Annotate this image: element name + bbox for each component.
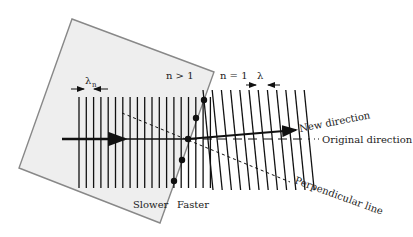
- lambda-n-label: λ: [85, 75, 92, 86]
- boundary-point: [185, 136, 191, 142]
- boundary-point: [201, 97, 207, 103]
- n-equals-1-label: n = 1: [220, 70, 248, 81]
- wavefront-air: [221, 90, 231, 190]
- boundary-point: [171, 178, 177, 184]
- new-direction-label: New direction: [298, 109, 371, 134]
- new-direction-ray: [188, 130, 296, 139]
- original-direction-label: Original direction: [322, 134, 413, 145]
- perpendicular-line-label: Perpendicular line: [293, 175, 384, 217]
- lambda-marker: λ: [246, 70, 280, 85]
- boundary-point: [179, 157, 185, 163]
- slower-label: Slower: [133, 199, 169, 210]
- refraction-diagram: λ n λ n > 1 n = 1 New direction Original…: [0, 0, 413, 237]
- wavefront-air: [286, 90, 296, 190]
- lambda-label: λ: [257, 70, 264, 81]
- wavefront-air: [277, 90, 287, 190]
- wavefront-air: [203, 90, 213, 190]
- wavefront-air: [231, 90, 241, 190]
- n-greater-than-1-label: n > 1: [166, 70, 194, 81]
- wavefront-air: [212, 90, 222, 190]
- wavefront-air: [240, 90, 250, 190]
- lambda-n-subscript: n: [92, 81, 97, 89]
- faster-label: Faster: [177, 199, 209, 210]
- wavefront-air: [258, 90, 268, 190]
- wavefront-air: [304, 90, 314, 190]
- boundary-point: [193, 115, 199, 121]
- wavefront-air: [249, 90, 259, 190]
- dense-medium-region: [19, 19, 214, 223]
